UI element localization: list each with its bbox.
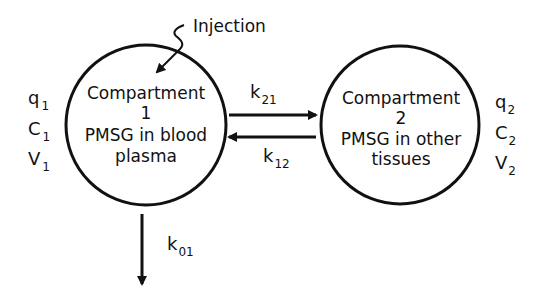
- injection-label: Injection: [193, 16, 266, 36]
- svg-text:V1: V1: [28, 148, 50, 174]
- svg-text:q2: q2: [495, 91, 515, 117]
- variable-v2-sub: 2: [508, 164, 516, 178]
- compartment-1-variables: q1 C1 V1: [28, 87, 50, 174]
- compartment-diagram: Injection Compartment 1 PMSG in blood pl…: [0, 0, 542, 295]
- svg-text:q1: q1: [28, 87, 49, 113]
- variable-v1-sub: 1: [42, 160, 50, 174]
- variable-v1-base: V: [28, 148, 41, 169]
- svg-text:V2: V2: [495, 152, 516, 178]
- compartment-2-line1: PMSG in other: [341, 129, 461, 149]
- variable-c2-base: C: [495, 122, 508, 143]
- variable-q1-base: q: [28, 87, 39, 108]
- k21-label: k21: [250, 81, 277, 107]
- compartment-1-line2: plasma: [115, 146, 177, 166]
- compartment-1-title: Compartment: [87, 83, 205, 103]
- svg-text:C1: C1: [28, 118, 50, 144]
- compartment-2-variables: q2 C2 V2: [495, 91, 516, 178]
- variable-q1-sub: 1: [41, 99, 49, 113]
- compartment-2-number: 2: [396, 108, 407, 128]
- variable-c2-sub: 2: [509, 134, 517, 148]
- variable-q2-sub: 2: [507, 103, 515, 117]
- compartment-2-title: Compartment: [342, 88, 460, 108]
- variable-c1-sub: 1: [43, 130, 51, 144]
- k01-label: k01: [167, 233, 194, 259]
- compartment-1-number: 1: [141, 103, 152, 123]
- variable-q2-base: q: [495, 91, 506, 112]
- svg-text:C2: C2: [495, 122, 516, 148]
- compartment-1-line1: PMSG in blood: [85, 125, 207, 145]
- variable-c1-base: C: [28, 118, 41, 139]
- k12-label: k12: [263, 145, 290, 171]
- compartment-2-line2: tissues: [371, 149, 430, 169]
- variable-v2-base: V: [495, 152, 508, 173]
